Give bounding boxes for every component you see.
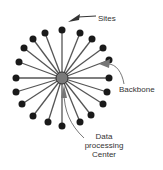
site-node bbox=[21, 45, 28, 52]
sites-arrow-icon bbox=[68, 14, 96, 22]
data-processing-center-label: Data processing Center bbox=[84, 132, 124, 159]
site-node bbox=[30, 36, 37, 43]
site-node bbox=[89, 36, 96, 43]
center-label-line3: Center bbox=[84, 150, 124, 159]
site-node bbox=[100, 45, 107, 52]
site-node bbox=[30, 113, 37, 120]
site-node bbox=[45, 119, 52, 126]
site-node bbox=[13, 75, 20, 82]
site-node bbox=[77, 30, 84, 37]
site-node bbox=[77, 119, 84, 126]
site-node bbox=[88, 112, 95, 119]
spoke-line bbox=[16, 78, 62, 92]
spoke-line bbox=[62, 78, 103, 104]
site-node bbox=[59, 123, 66, 130]
center-label-line2: processing bbox=[84, 141, 124, 150]
center-label-line1: Data bbox=[84, 132, 124, 141]
site-node bbox=[104, 89, 111, 96]
site-node bbox=[16, 59, 23, 66]
data-processing-center-hub bbox=[56, 72, 68, 84]
sites-label: Sites bbox=[98, 14, 116, 23]
site-node bbox=[42, 30, 49, 37]
spoke-line bbox=[22, 78, 62, 104]
site-node bbox=[19, 101, 26, 108]
backbone-label: Backbone bbox=[119, 85, 155, 94]
center-arrow-icon bbox=[61, 85, 84, 138]
spoke-line bbox=[62, 78, 107, 92]
spoke-line bbox=[33, 78, 62, 116]
site-node bbox=[106, 75, 113, 82]
spoke-line bbox=[48, 78, 62, 122]
site-node bbox=[59, 27, 66, 34]
site-node bbox=[100, 101, 107, 108]
site-node bbox=[13, 89, 20, 96]
